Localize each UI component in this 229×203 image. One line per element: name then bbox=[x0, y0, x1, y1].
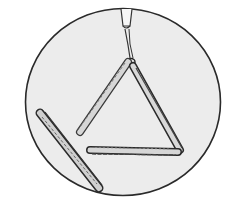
hanging-holder-icon bbox=[121, 9, 132, 28]
circle-frame bbox=[26, 9, 221, 196]
triangle-illustration: Triangle instrument with beater bbox=[0, 0, 229, 203]
